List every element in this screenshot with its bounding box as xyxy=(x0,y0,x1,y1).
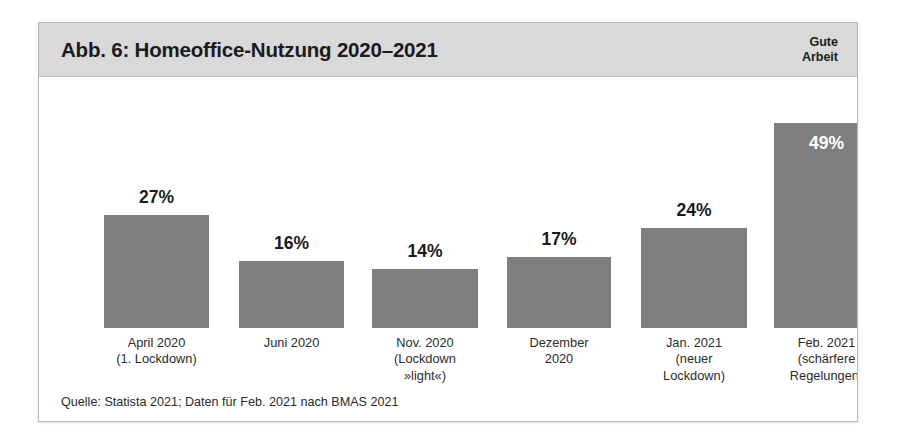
bar-category-label: Nov. 2020(Lockdown»light«) xyxy=(360,335,490,384)
brand-logo: Gute Arbeit xyxy=(802,34,838,65)
bar-category-label: Feb. 2021(schärfereRegelungen) xyxy=(762,335,858,384)
bar-category-line: 2020 xyxy=(495,351,623,367)
bar-group: 17%Dezember2020 xyxy=(507,77,611,422)
bar-group: 24%Jan. 2021(neuerLockdown) xyxy=(641,77,747,422)
bar-category-line: (1. Lockdown) xyxy=(92,351,221,367)
bar-category-line: Nov. 2020 xyxy=(360,335,490,351)
bar-group: 14%Nov. 2020(Lockdown»light«) xyxy=(372,77,478,422)
bar xyxy=(104,215,209,328)
bar-group: 49%Feb. 2021(schärfereRegelungen) xyxy=(774,77,858,422)
bar-category-line: Lockdown) xyxy=(629,368,759,384)
bar-category-line: Regelungen) xyxy=(762,368,858,384)
bar xyxy=(641,228,747,328)
bar xyxy=(372,269,478,328)
source-note: Quelle: Statista 2021; Daten für Feb. 20… xyxy=(61,395,398,409)
bar-value-label: 16% xyxy=(239,235,344,253)
bar-category-label: April 2020(1. Lockdown) xyxy=(92,335,221,368)
bar-category-label: Dezember2020 xyxy=(495,335,623,368)
bar-category-line: Dezember xyxy=(495,335,623,351)
bar-value-label: 27% xyxy=(104,189,209,207)
bar-category-line: Juni 2020 xyxy=(227,335,356,351)
bar-category-line: (schärfere xyxy=(762,351,858,367)
bar-value-label: 17% xyxy=(507,231,611,249)
bar xyxy=(774,123,858,328)
brand-line-1: Gute xyxy=(802,34,838,49)
bar-category-label: Jan. 2021(neuerLockdown) xyxy=(629,335,759,384)
bar-group: 16%Juni 2020 xyxy=(239,77,344,422)
bar-category-line: Feb. 2021 xyxy=(762,335,858,351)
bar-category-line: (Lockdown xyxy=(360,351,490,367)
bar-value-label: 49% xyxy=(774,135,858,153)
brand-line-2: Arbeit xyxy=(802,50,838,65)
bar-category-line: (neuer xyxy=(629,351,759,367)
page-title: Abb. 6: Homeoffice-Nutzung 2020–2021 xyxy=(61,38,438,62)
figure-panel: Abb. 6: Homeoffice-Nutzung 2020–2021 Gut… xyxy=(38,22,858,422)
bar-value-label: 14% xyxy=(372,243,478,261)
bar-group: 27%April 2020(1. Lockdown) xyxy=(104,77,209,422)
bar xyxy=(507,257,611,328)
bar xyxy=(239,261,344,328)
bar-category-label: Juni 2020 xyxy=(227,335,356,351)
bar-category-line: Jan. 2021 xyxy=(629,335,759,351)
chart-plot-area: 27%April 2020(1. Lockdown)16%Juni 202014… xyxy=(39,77,857,422)
bar-category-line: April 2020 xyxy=(92,335,221,351)
bar-value-label: 24% xyxy=(641,202,747,220)
figure-header-band: Abb. 6: Homeoffice-Nutzung 2020–2021 Gut… xyxy=(39,23,857,77)
bar-category-line: »light«) xyxy=(360,368,490,384)
